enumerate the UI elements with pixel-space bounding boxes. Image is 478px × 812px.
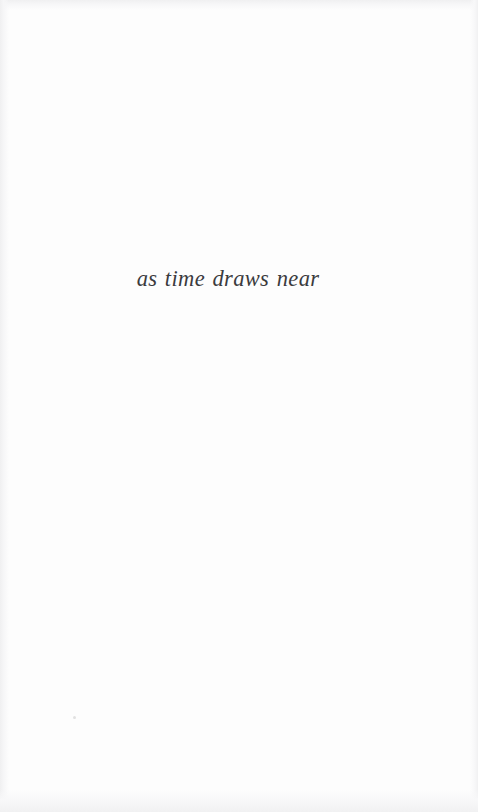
page-edge-shadow-top xyxy=(0,0,478,10)
page-edge-shadow-left xyxy=(0,0,9,812)
page-edge-shadow-bottom xyxy=(0,790,478,812)
page-text-block: as time draws near xyxy=(0,264,478,294)
scan-speck-artifact xyxy=(73,716,76,719)
scanned-page: as time draws near xyxy=(0,0,478,812)
page-edge-shadow-right xyxy=(470,0,478,812)
epigraph-text: as time draws near xyxy=(137,264,320,294)
